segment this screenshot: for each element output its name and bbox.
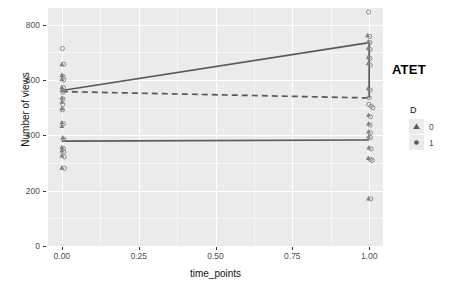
y-axis-tick-label: 0 — [0, 241, 40, 251]
legend-item-0[interactable]: 0 — [409, 119, 449, 134]
atet-annotation: ATET — [392, 62, 426, 77]
data-point-circle — [366, 10, 370, 14]
x-axis-tick-label: 0.50 — [196, 251, 236, 261]
chart-root: 0200400600800 0.000.250.500.751.00 Numbe… — [0, 0, 449, 291]
legend-item-label: 1 — [429, 138, 434, 148]
x-axis-title: time_points — [48, 268, 383, 279]
series-line-control-trend — [62, 140, 369, 141]
legend-item-label: 0 — [429, 122, 434, 132]
x-axis-tick-label: 1.00 — [349, 251, 389, 261]
series-line-counterfactual-trend — [62, 92, 369, 98]
y-axis-tick-mark — [43, 246, 46, 247]
y-axis-tick-mark — [43, 80, 46, 81]
legend-items: 01 — [409, 119, 449, 150]
plot-panel — [48, 8, 383, 246]
legend-title: D — [410, 105, 449, 115]
x-axis-tick-label: 0.25 — [119, 251, 159, 261]
data-layer — [48, 8, 383, 246]
x-axis-tick-mark — [216, 247, 217, 250]
series-lines — [62, 43, 369, 142]
y-axis-tick-mark — [43, 191, 46, 192]
legend-key-triangle-icon — [409, 119, 424, 134]
y-axis-title: Number of views — [20, 30, 31, 190]
x-axis-tick-mark — [369, 247, 370, 250]
legend: D 01 — [409, 105, 449, 151]
x-axis-tick-mark — [139, 247, 140, 250]
x-axis-tick-label: 0.00 — [42, 251, 82, 261]
legend-item-1[interactable]: 1 — [409, 135, 449, 150]
data-point-circle — [60, 46, 64, 50]
x-axis-tick-mark — [62, 247, 63, 250]
scatter-points — [59, 10, 375, 201]
x-axis-tick-mark — [292, 247, 293, 250]
y-axis-tick-label: 800 — [0, 20, 40, 30]
x-axis-tick-label: 0.75 — [272, 251, 312, 261]
y-axis-tick-mark — [43, 135, 46, 136]
series-line-treated-trend — [62, 43, 369, 91]
data-point-triangle — [59, 99, 64, 103]
legend-key-circle-icon — [409, 135, 424, 150]
y-axis-tick-mark — [43, 25, 46, 26]
